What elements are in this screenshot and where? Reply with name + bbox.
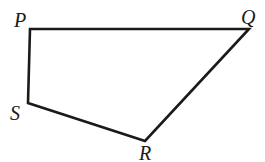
vertex-label-r: R [138,142,151,162]
quadrilateral-diagram: P Q R S [0,0,265,162]
vertex-label-p: P [13,9,26,31]
quadrilateral-pqrs [28,29,249,141]
vertex-label-q: Q [241,6,256,28]
vertex-label-s: S [10,102,20,124]
